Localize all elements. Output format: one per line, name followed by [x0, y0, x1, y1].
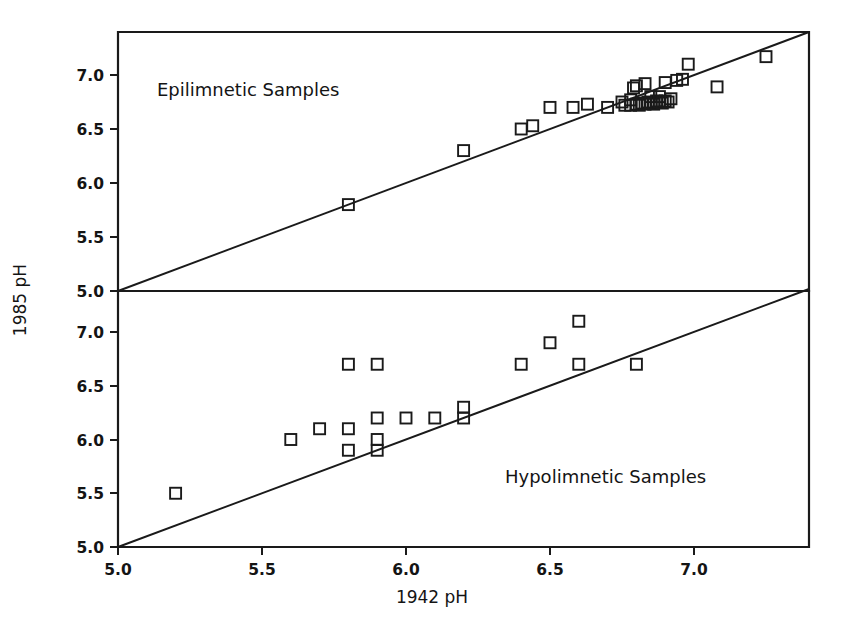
data-point-marker	[372, 413, 383, 424]
data-point-marker	[527, 120, 538, 131]
panel-top-annotation: Epilimnetic Samples	[157, 79, 339, 100]
panel-top-ytick-5-0: 5.0	[77, 283, 105, 301]
data-point-marker	[582, 99, 593, 110]
data-point-marker	[631, 359, 642, 370]
ph-comparison-figure: 1985 pH 1942 pH 5.0 5.5 6.0 6.5 7.0	[0, 0, 846, 636]
panel-bottom-ytick-6-0: 6.0	[77, 432, 105, 450]
data-point-marker	[712, 81, 723, 92]
data-point-marker	[401, 413, 412, 424]
panel-top-reference-line	[118, 32, 809, 291]
panel-top-ytick-6-5: 6.5	[77, 121, 104, 139]
xtick-7-0: 7.0	[680, 561, 708, 579]
xtick-6-5: 6.5	[536, 561, 563, 579]
panel-top-ytick-5-5: 5.5	[77, 229, 104, 247]
data-point-marker	[343, 445, 354, 456]
data-point-marker	[516, 124, 527, 135]
panel-top-ytick-6-0: 6.0	[77, 175, 105, 193]
xtick-5-0: 5.0	[104, 561, 132, 579]
y-axis-title: 1985 pH	[10, 264, 30, 336]
panel-top-ytick-7-0: 7.0	[77, 67, 105, 85]
data-point-marker	[573, 359, 584, 370]
data-point-marker	[573, 316, 584, 327]
panel-bottom-ytick-5-5: 5.5	[77, 485, 104, 503]
data-point-marker	[372, 359, 383, 370]
xtick-6-0: 6.0	[392, 561, 420, 579]
panel-hypolimnetic: 5.0 5.5 6.0 6.5 7.0 5.0 5.5 6.0 6.5 7.0 …	[77, 289, 809, 579]
data-point-marker	[761, 51, 772, 62]
data-point-marker	[285, 434, 296, 445]
data-point-marker	[429, 413, 440, 424]
panel-top-data-points	[343, 51, 772, 210]
data-point-marker	[170, 488, 181, 499]
data-point-marker	[545, 102, 556, 113]
panel-bottom-ytick-7-0: 7.0	[77, 324, 105, 342]
xtick-5-5: 5.5	[248, 561, 275, 579]
data-point-marker	[343, 423, 354, 434]
scatter-plot-svg: 1985 pH 1942 pH 5.0 5.5 6.0 6.5 7.0	[0, 0, 846, 636]
data-point-marker	[568, 102, 579, 113]
data-point-marker	[458, 402, 469, 413]
panel-bottom-ytick-5-0: 5.0	[77, 539, 105, 557]
panel-epilimnetic: 5.0 5.5 6.0 6.5 7.0 Epilimnetic Samples	[77, 32, 809, 301]
data-point-marker	[545, 337, 556, 348]
data-point-marker	[683, 59, 694, 70]
data-point-marker	[458, 145, 469, 156]
data-point-marker	[516, 359, 527, 370]
data-point-marker	[343, 359, 354, 370]
data-point-marker	[314, 423, 325, 434]
panel-bottom-annotation: Hypolimnetic Samples	[505, 466, 706, 487]
x-axis-title: 1942 pH	[396, 587, 468, 607]
panel-bottom-reference-line	[118, 289, 809, 547]
data-point-marker	[372, 434, 383, 445]
panel-bottom-ytick-6-5: 6.5	[77, 378, 104, 396]
